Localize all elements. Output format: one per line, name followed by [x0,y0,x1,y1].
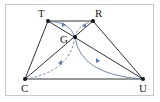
vertex-R [91,19,95,23]
arrow-icon [58,60,62,65]
vertex-U [141,77,145,81]
label-U: U [139,83,147,94]
label-C: C [21,83,28,94]
vertex-T [46,19,50,23]
edges [25,21,143,79]
label-R: R [95,8,102,19]
label-G: G [60,34,68,45]
diagonal-TU [48,21,143,79]
diagonal-RC [25,21,93,79]
curves [25,21,143,79]
arrow-icon [96,58,100,63]
edge-TC [25,21,48,79]
label-T: T [38,8,45,19]
vertex-G [73,35,77,39]
vertex-C [23,77,27,81]
arrow-icon [62,22,66,27]
edge-RU [93,21,143,79]
